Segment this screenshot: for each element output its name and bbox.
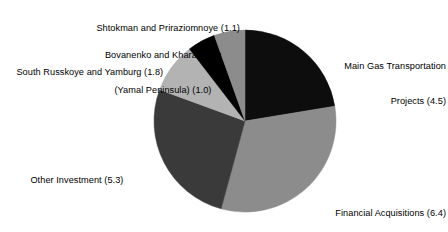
pie-label-maingas-line-1: Main Gas Transportation: [322, 61, 446, 73]
pie-label-financial-text: Financial Acquisitions (6.4): [335, 208, 446, 218]
pie-label-other-investment: Other Investment (5.3): [20, 163, 170, 198]
pie-label-maingas-line-2: Projects (4.5): [322, 96, 446, 108]
pie-label-other-text: Other Investment (5.3): [30, 175, 123, 185]
pie-label-south-text: South Russkoye and Yamburg (1.8): [16, 67, 163, 77]
pie-label-financial-acquisitions: Financial Acquisitions (6.4): [320, 196, 446, 231]
pie-chart-figure: Shtokman and Priraziomnoye (1.1) Bovanen…: [0, 0, 448, 232]
pie-label-south-russkoye-and-yamburg: South Russkoye and Yamburg (1.8): [6, 55, 180, 90]
pie-label-main-gas-transportation-projects: Main Gas Transportation Projects (4.5): [322, 38, 446, 131]
